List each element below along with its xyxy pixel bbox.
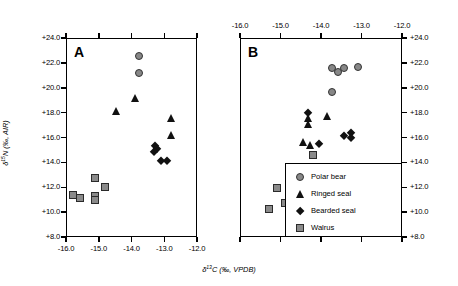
data-point-walrus: [91, 174, 99, 182]
data-point-ringed-seal: [304, 120, 312, 128]
data-point-walrus: [273, 184, 281, 192]
circle-marker-icon: [294, 173, 306, 181]
x-tick-label-a: -12.0: [189, 245, 205, 253]
data-point-walrus: [265, 205, 273, 213]
x-tick-label-b: -12.0: [394, 22, 410, 30]
legend-item-walrus: Walrus: [294, 224, 334, 232]
axis-tick: [164, 237, 166, 242]
axis-tick: [98, 237, 100, 242]
y-tick-label-right: +24.0: [410, 34, 428, 42]
data-point-ringed-seal: [167, 131, 175, 139]
y-tick-label-left: +14.0: [26, 159, 60, 167]
axis-tick: [402, 236, 407, 238]
data-point-polar-bear: [135, 52, 143, 60]
y-tick-label-right: +8.0: [410, 233, 424, 241]
legend-box: Polar bearRinged sealBearded sealWalrus: [285, 163, 402, 237]
y-tick-label-left: +18.0: [26, 109, 60, 117]
y-tick-label-left: +24.0: [26, 34, 60, 42]
y-tick-label-right: +22.0: [410, 59, 428, 67]
legend-label: Bearded seal: [311, 207, 356, 215]
y-tick-label-left: +22.0: [26, 59, 60, 67]
axis-tick: [320, 33, 322, 38]
legend-item-polar-bear: Polar bear: [294, 173, 346, 181]
panel-b-label: B: [248, 45, 258, 59]
axis-tick: [61, 87, 66, 89]
x-axis-title: δ13C (‰, VPDB): [202, 266, 256, 273]
y-tick-label-right: +14.0: [410, 159, 428, 167]
axis-tick: [61, 137, 66, 139]
axis-tick: [361, 237, 363, 242]
axis-tick: [361, 33, 363, 38]
y-axis-title: δ15N (‰, AIR): [2, 120, 9, 166]
legend-label: Walrus: [311, 224, 334, 232]
x-tick-label-b: -15.0: [272, 22, 288, 30]
axis-tick: [402, 211, 407, 213]
data-point-polar-bear: [135, 69, 143, 77]
panel-a-label: A: [74, 45, 84, 59]
x-tick-label-b: -13.0: [353, 22, 369, 30]
data-point-polar-bear: [354, 63, 362, 71]
axis-tick: [61, 112, 66, 114]
data-point-walrus: [76, 194, 84, 202]
triangle-marker-icon: [294, 190, 306, 198]
axis-tick: [131, 33, 133, 38]
axis-tick: [61, 62, 66, 64]
data-point-ringed-seal: [306, 141, 314, 149]
y-tick-label-left: +16.0: [26, 134, 60, 142]
axis-tick: [402, 37, 407, 39]
axis-tick: [196, 33, 198, 38]
legend-item-ringed-seal: Ringed seal: [294, 190, 351, 198]
legend-item-bearded-seal: Bearded seal: [294, 207, 356, 215]
panel-a-plot-frame: [66, 38, 197, 237]
axis-tick: [65, 237, 67, 242]
axis-tick: [61, 162, 66, 164]
axis-tick: [402, 187, 407, 189]
axis-tick: [402, 87, 407, 89]
axis-tick: [402, 112, 407, 114]
x-tick-label-a: -16.0: [58, 245, 74, 253]
x-tick-label-a: -15.0: [91, 245, 107, 253]
legend-label: Ringed seal: [311, 190, 351, 198]
data-point-ringed-seal: [323, 112, 331, 120]
x-tick-label-b: -14.0: [313, 22, 329, 30]
y-tick-label-left: +10.0: [26, 208, 60, 216]
axis-tick: [61, 37, 66, 39]
axis-tick: [280, 33, 282, 38]
figure-scatter-isotope: A B -16.0-15.0-14.0-13.0-12.0-16.0-15.0-…: [0, 0, 458, 286]
axis-tick: [196, 237, 198, 242]
axis-tick: [402, 62, 407, 64]
square-marker-icon: [294, 224, 306, 232]
y-tick-label-right: +10.0: [410, 208, 428, 216]
axis-tick: [61, 211, 66, 213]
data-point-ringed-seal: [131, 94, 139, 102]
axis-tick: [402, 137, 407, 139]
diamond-marker-icon: [294, 208, 306, 214]
data-point-walrus: [309, 151, 317, 159]
axis-tick: [61, 187, 66, 189]
axis-tick: [320, 237, 322, 242]
data-point-ringed-seal: [112, 107, 120, 115]
axis-tick: [401, 237, 403, 242]
x-tick-label-b: -16.0: [232, 22, 248, 30]
legend-label: Polar bear: [311, 173, 346, 181]
axis-tick: [131, 237, 133, 242]
data-point-ringed-seal: [167, 114, 175, 122]
y-tick-label-right: +16.0: [410, 134, 428, 142]
axis-tick: [239, 237, 241, 242]
axis-tick: [280, 237, 282, 242]
data-point-polar-bear: [340, 64, 348, 72]
axis-tick: [402, 162, 407, 164]
y-tick-label-right: +18.0: [410, 109, 428, 117]
axis-tick: [98, 33, 100, 38]
data-point-walrus: [101, 183, 109, 191]
axis-tick: [164, 33, 166, 38]
data-point-walrus: [91, 196, 99, 204]
y-tick-label-left: +8.0: [26, 233, 60, 241]
axis-tick: [61, 236, 66, 238]
y-tick-label-right: +12.0: [410, 183, 428, 191]
axis-tick: [239, 33, 241, 38]
x-tick-label-a: -14.0: [123, 245, 139, 253]
data-point-polar-bear: [328, 88, 336, 96]
y-tick-label-right: +20.0: [410, 84, 428, 92]
x-tick-label-a: -13.0: [156, 245, 172, 253]
